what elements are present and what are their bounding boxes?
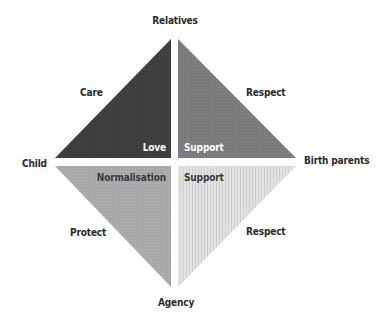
- relationship-diamond-diagram: Relatives Child Birth parents Agency Car…: [0, 0, 382, 328]
- vertex-label-bottom: Agency: [158, 296, 194, 308]
- inner-label-bottom-right: Support: [184, 171, 224, 183]
- inner-label-bottom-left: Normalisation: [97, 171, 166, 183]
- vertex-label-right: Birth parents: [304, 154, 369, 166]
- inner-label-top-left: Love: [143, 141, 166, 153]
- edge-label-bottom-left: Protect: [70, 226, 106, 238]
- vertex-label-top: Relatives: [152, 14, 198, 26]
- vertex-label-left: Child: [22, 157, 47, 169]
- edge-label-top-left: Care: [80, 86, 103, 98]
- edge-label-top-right: Respect: [246, 86, 286, 98]
- edge-label-bottom-right: Respect: [246, 225, 286, 237]
- inner-label-top-right: Support: [184, 141, 224, 153]
